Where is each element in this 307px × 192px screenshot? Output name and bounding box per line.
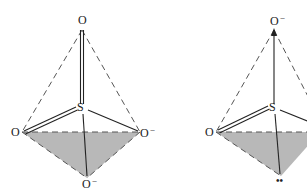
single-bond-right [280, 110, 307, 122]
charge-minus: − [92, 176, 97, 186]
arrowhead-top [271, 28, 277, 36]
atom-label-bottom-o: O− [82, 177, 97, 190]
dashed-edge-top-right [82, 30, 140, 132]
double-bond-left-a [218, 106, 268, 130]
dashed-edge-top-right [274, 30, 307, 120]
lone-pair: •• [276, 176, 283, 186]
single-bond-right [88, 110, 138, 131]
atom-label-s: S [77, 101, 84, 113]
right-tetrahedron [216, 28, 307, 176]
double-bond-left-b [26, 110, 78, 134]
dashed-edge-top-left [22, 30, 82, 132]
shaded-base-face [22, 132, 140, 178]
atom-label-left-o: O [11, 126, 20, 138]
atom-label-top-o: O− [270, 14, 285, 27]
double-bond-left-a [24, 107, 76, 131]
charge-minus: − [280, 13, 285, 23]
charge-minus: − [150, 125, 155, 135]
tetrahedra-diagram [0, 0, 307, 192]
atom-label-left-o: O [205, 126, 214, 138]
atom-label-top-o: O [78, 14, 87, 26]
shaded-base-face [216, 132, 307, 176]
atom-label-s: S [269, 101, 276, 113]
atom-label-right-o: O− [140, 126, 155, 139]
